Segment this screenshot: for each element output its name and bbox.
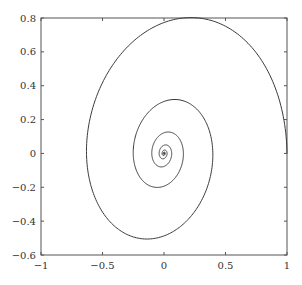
x-tick-label: 0.5 (218, 260, 234, 271)
x-tick-label: 0 (161, 260, 167, 271)
x-tick-label: −0.5 (90, 260, 114, 271)
y-tick-label: −0.6 (12, 250, 36, 261)
y-tick-label: 0.6 (20, 46, 36, 57)
y-tick-label: 0 (30, 148, 36, 159)
y-tick-label: −0.2 (12, 182, 36, 193)
x-tick-label: 1 (284, 260, 290, 271)
spiral-chart: −0.6−0.4−0.200.20.40.60.8 −1−0.500.51 (0, 0, 302, 285)
y-tick-label: 0.8 (20, 13, 36, 24)
spiral-curve (86, 18, 287, 239)
plot-frame (41, 18, 287, 255)
y-axis-ticks: −0.6−0.4−0.200.20.40.60.8 (12, 13, 287, 261)
y-tick-label: 0.2 (20, 114, 36, 125)
y-tick-label: 0.4 (20, 80, 36, 91)
x-axis-ticks: −1−0.500.51 (34, 18, 291, 271)
x-tick-label: −1 (34, 260, 49, 271)
y-tick-label: −0.4 (12, 216, 36, 227)
